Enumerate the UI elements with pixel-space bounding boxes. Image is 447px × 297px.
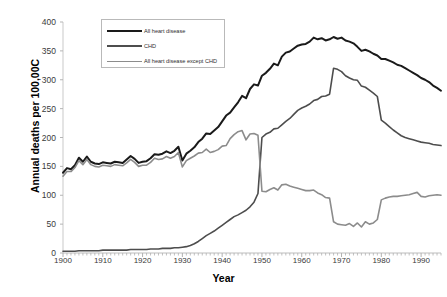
legend-swatch-all-heart-disease (107, 30, 142, 32)
legend-label-all-heart-disease: All heart disease (144, 28, 185, 34)
chart-legend: All heart disease CHD All heart disease … (101, 19, 225, 68)
legend-item-chd: CHD (107, 40, 156, 52)
legend-swatch-chd (107, 45, 142, 47)
series-line-all-heart-disease-except-chd (63, 131, 441, 227)
chart-figure: Annual deaths per 100,00C Year 050100150… (0, 0, 447, 297)
legend-swatch-all-except-chd (107, 61, 142, 62)
legend-item-all-except-chd: All heart disease except CHD (107, 55, 217, 67)
legend-label-all-except-chd: All heart disease except CHD (144, 58, 217, 64)
legend-item-all-heart-disease: All heart disease (107, 25, 185, 37)
series-line-chd (63, 68, 441, 251)
legend-label-chd: CHD (144, 43, 156, 49)
